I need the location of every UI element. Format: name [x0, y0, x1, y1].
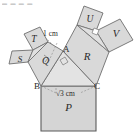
length-sqrt3cm-label: √3 cm [56, 89, 75, 98]
figure-svg: P Q R S T U V A B C 1 cm √3 cm [0, 0, 140, 133]
square-U-label: U [87, 14, 95, 24]
square-S-label: S [18, 54, 23, 64]
point-B-label: B [34, 81, 40, 91]
square-R-label: R [83, 50, 91, 62]
square-T-label: T [31, 34, 37, 44]
square-Q-label: Q [42, 55, 50, 66]
square-P-label: P [64, 101, 72, 113]
geometry-figure: P Q R S T U V A B C 1 cm √3 cm [0, 0, 140, 133]
length-1cm-label: 1 cm [43, 29, 58, 38]
point-A-label: A [63, 44, 70, 54]
point-C-label: C [94, 81, 100, 91]
